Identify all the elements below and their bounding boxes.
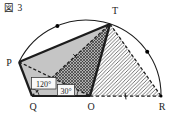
point-label-Q: Q	[29, 101, 37, 112]
point-label-P: P	[6, 57, 12, 68]
arc-midpoint-dot-right	[145, 50, 149, 54]
geometry-canvas: 120° 30° P T Q O R	[0, 0, 176, 119]
point-label-R: R	[159, 101, 166, 112]
arc-midpoint-dot-left	[55, 24, 59, 28]
point-label-T: T	[112, 5, 118, 16]
angle-label-120: 120°	[36, 80, 51, 89]
angle-label-30: 30°	[60, 87, 71, 96]
figure-3-diagram: 図 3	[0, 0, 176, 119]
point-dot-R	[160, 95, 163, 98]
point-label-O: O	[87, 101, 94, 112]
